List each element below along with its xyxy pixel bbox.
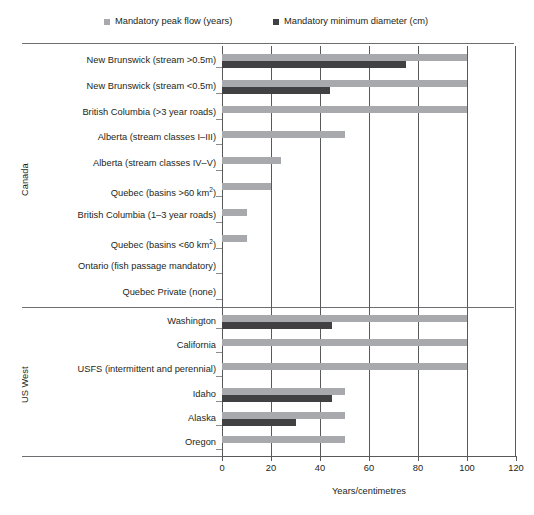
bar-peak-flow (222, 412, 345, 419)
category-label: Alberta (stream classes IV–V) (40, 158, 216, 169)
category-label: Alberta (stream classes I–III) (40, 132, 216, 143)
x-tick-label: 60 (349, 463, 389, 473)
x-tick (271, 456, 272, 461)
x-tick (222, 456, 223, 461)
chart-top-rule (22, 43, 514, 44)
bar-peak-flow (222, 388, 345, 395)
category-label: British Columbia (>3 year roads) (40, 107, 216, 118)
x-tick (467, 456, 468, 461)
x-axis-title: Years/centimetres (222, 486, 516, 496)
category-label: Quebec Private (none) (40, 287, 216, 298)
x-tick-label: 40 (300, 463, 340, 473)
x-tick-label: 20 (251, 463, 291, 473)
category-label: Oregon (40, 437, 216, 448)
x-tick (516, 456, 517, 461)
gridline-120 (515, 46, 516, 456)
bar-peak-flow (222, 80, 467, 87)
bar-min-diameter (222, 419, 296, 426)
group-label-us-west: US West (20, 355, 32, 415)
x-tick-label: 0 (202, 463, 242, 473)
x-tick (418, 456, 419, 461)
bar-peak-flow (222, 131, 345, 138)
category-tick (216, 196, 222, 197)
category-tick (216, 425, 222, 426)
category-label: USFS (intermittent and perennial) (40, 364, 216, 375)
bar-peak-flow (222, 106, 467, 113)
category-label: Washington (40, 316, 216, 327)
x-tick-label: 120 (496, 463, 534, 473)
bar-peak-flow (222, 315, 467, 322)
category-tick (216, 93, 222, 94)
category-label: Idaho (40, 389, 216, 400)
group-label-canada: Canada (20, 150, 32, 210)
bar-min-diameter (222, 61, 406, 68)
bar-peak-flow (222, 209, 247, 216)
category-label: Alaska (40, 413, 216, 424)
category-tick (216, 328, 222, 329)
category-label: British Columbia (1–3 year roads) (40, 210, 216, 221)
category-tick (216, 170, 222, 171)
category-tick (216, 119, 222, 120)
plot-area (222, 46, 516, 456)
category-tick (216, 273, 222, 274)
bar-peak-flow (222, 157, 281, 164)
bar-peak-flow (222, 183, 271, 190)
category-tick (216, 352, 222, 353)
bar-peak-flow (222, 54, 467, 61)
x-tick (320, 456, 321, 461)
category-label: New Brunswick (stream >0.5m) (40, 55, 216, 66)
category-tick (216, 248, 222, 249)
category-tick (216, 299, 222, 300)
category-tick (216, 401, 222, 402)
category-label: Quebec (basins >60 km2) (40, 184, 216, 199)
category-label: California (40, 340, 216, 351)
category-tick (216, 222, 222, 223)
x-tick-label: 80 (398, 463, 438, 473)
category-label: New Brunswick (stream <0.5m) (40, 81, 216, 92)
x-tick (369, 456, 370, 461)
category-label: Ontario (fish passage mandatory) (40, 261, 216, 272)
category-tick (216, 144, 222, 145)
gridline-100 (467, 46, 468, 456)
category-tick (216, 449, 222, 450)
bar-peak-flow (222, 339, 467, 346)
bar-peak-flow (222, 235, 247, 242)
bar-chart: Canada US West New Brunswick (stream >0.… (0, 0, 534, 515)
bar-peak-flow (222, 363, 467, 370)
category-label: Quebec (basins <60 km2) (40, 236, 216, 251)
bar-min-diameter (222, 322, 332, 329)
category-tick (216, 376, 222, 377)
bar-peak-flow (222, 436, 345, 443)
bar-min-diameter (222, 87, 330, 94)
category-tick (216, 67, 222, 68)
bar-min-diameter (222, 395, 332, 402)
x-tick-label: 100 (447, 463, 487, 473)
